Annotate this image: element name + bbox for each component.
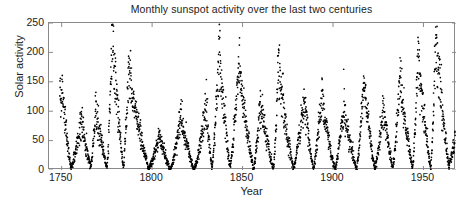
chart-title: Monthly sunspot activity over the last t… [48, 3, 455, 16]
y-tick-label: 50 [16, 134, 44, 145]
x-tick-label: 1750 [39, 171, 83, 183]
x-tick-label: 1900 [310, 171, 354, 183]
x-axis-tick-labels: 17501800185019001950 [0, 171, 465, 185]
x-tick-label: 1950 [400, 171, 444, 183]
y-tick-label: 250 [16, 17, 44, 28]
plot-area [48, 22, 455, 169]
x-tick-label: 1800 [129, 171, 173, 183]
y-tick-label: 200 [16, 46, 44, 57]
y-tick-label: 100 [16, 105, 44, 116]
data-points [59, 24, 456, 170]
scatter-plot-canvas [49, 23, 456, 170]
y-tick-label: 150 [16, 75, 44, 86]
x-tick-label: 1850 [220, 171, 264, 183]
x-axis-label: Year [48, 185, 455, 198]
chart-figure: Monthly sunspot activity over the last t… [0, 0, 465, 203]
